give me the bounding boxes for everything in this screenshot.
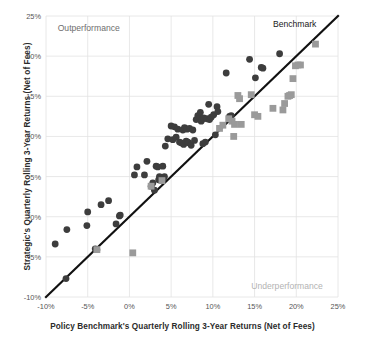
data-point-circle <box>159 163 166 170</box>
data-point-square <box>230 133 237 140</box>
data-point-circle <box>63 226 70 233</box>
y-tick-label: 25% <box>16 12 41 21</box>
annotation-underperformance: Underperformance <box>251 281 323 291</box>
x-tick-label: 5% <box>166 302 177 311</box>
data-point-circle <box>223 70 230 77</box>
data-point-circle <box>162 143 169 150</box>
data-point-circle <box>52 241 59 248</box>
data-point-circle <box>63 275 70 282</box>
y-tick-label: 20% <box>16 52 41 61</box>
scatter-chart: Strategic's Quarterly Rolling 3-Year Ret… <box>0 0 365 341</box>
x-tick-label: -5% <box>81 302 94 311</box>
data-point-circle <box>131 172 138 179</box>
data-point-square <box>219 122 226 129</box>
data-point-circle <box>117 212 124 219</box>
data-point-circle <box>205 101 212 108</box>
y-tick-label: 15% <box>16 92 41 101</box>
x-tick-label: -10% <box>37 302 54 311</box>
data-point-circle <box>98 201 105 208</box>
data-point-square <box>281 100 288 107</box>
annotation-benchmark: Benchmark <box>273 19 316 29</box>
data-point-square <box>290 75 297 82</box>
data-point-circle <box>212 131 219 138</box>
data-point-circle <box>202 139 209 146</box>
y-tick-label: 10% <box>16 132 41 141</box>
data-point-circle <box>84 208 91 215</box>
data-point-square <box>148 183 155 190</box>
data-point-square <box>297 62 304 69</box>
data-point-square <box>231 121 238 128</box>
series-circle <box>52 50 283 282</box>
data-point-circle <box>246 56 253 63</box>
data-point-circle <box>189 127 196 134</box>
data-point-square <box>93 246 100 253</box>
data-point-circle <box>134 164 141 171</box>
data-point-square <box>270 105 277 112</box>
data-point-circle <box>113 221 120 228</box>
annotation-outperformance: Outperformance <box>58 23 120 33</box>
plot-canvas <box>46 16 338 297</box>
data-point-circle <box>214 108 221 115</box>
data-point-square <box>238 121 245 128</box>
data-point-circle <box>276 50 283 57</box>
data-point-square <box>159 177 166 184</box>
y-tick-label: -10% <box>16 293 41 302</box>
data-point-square <box>288 91 295 98</box>
data-point-square <box>248 91 255 98</box>
data-point-circle <box>141 172 148 179</box>
data-point-square <box>255 113 262 120</box>
x-axis-title: Policy Benchmark's Quarterly Rolling 3-Y… <box>0 322 365 331</box>
x-tick-label: 25% <box>331 302 346 311</box>
data-point-square <box>280 107 287 114</box>
data-point-square <box>236 95 243 102</box>
series-square <box>93 41 318 257</box>
y-tick-label: 5% <box>16 172 41 181</box>
x-tick-label: 15% <box>247 302 262 311</box>
y-tick-label: 0% <box>16 212 41 221</box>
y-tick-label: -5% <box>16 252 41 261</box>
data-point-circle <box>105 197 112 204</box>
data-point-circle <box>83 222 90 229</box>
data-point-circle <box>252 74 259 81</box>
x-tick-label: 10% <box>205 302 220 311</box>
data-point-circle <box>260 65 267 72</box>
benchmark-reference-line <box>46 16 338 297</box>
x-tick-label: 0% <box>124 302 135 311</box>
data-point-circle <box>144 158 151 165</box>
data-point-square <box>129 249 136 256</box>
data-point-circle <box>191 137 198 144</box>
x-tick-label: 20% <box>289 302 304 311</box>
plot-area: -10%-5%0%5%10%15%20%25%-10%-5%0%5%10%15%… <box>46 16 338 297</box>
data-point-square <box>312 41 319 48</box>
